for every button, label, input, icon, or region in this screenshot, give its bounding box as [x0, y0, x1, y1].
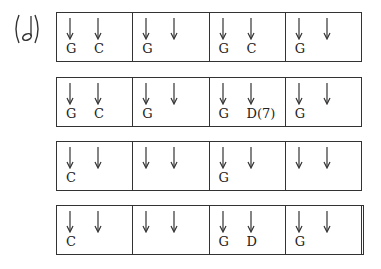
chord-label: G [219, 171, 229, 185]
chord-label: G [219, 42, 229, 56]
chart-row: CG [56, 141, 362, 191]
down-arrow-icon [246, 147, 256, 169]
down-arrow-icon [218, 83, 228, 105]
down-arrow-icon [294, 18, 304, 40]
chord-label: D(7) [247, 107, 276, 121]
measure: G [133, 78, 209, 126]
measure: GC [57, 13, 133, 61]
chord-label: G [142, 42, 152, 56]
measure: G [286, 13, 361, 61]
measure: C [57, 206, 133, 254]
down-arrow-icon [169, 147, 179, 169]
measure: G [210, 142, 286, 190]
measure: C [57, 142, 133, 190]
down-arrow-icon [141, 211, 151, 233]
down-arrow-icon [93, 147, 103, 169]
down-arrow-icon [93, 211, 103, 233]
chord-label: G [219, 107, 229, 121]
down-arrow-icon [169, 83, 179, 105]
chord-label: G [295, 235, 305, 249]
chord-label: G [219, 235, 229, 249]
half-note-icon [12, 12, 42, 46]
down-arrow-icon [93, 18, 103, 40]
chord-label: G [142, 107, 152, 121]
chord-label: G [66, 42, 76, 56]
measure [133, 142, 209, 190]
down-arrow-icon [169, 18, 179, 40]
measure: GD [210, 206, 286, 254]
down-arrow-icon [218, 147, 228, 169]
down-arrow-icon [93, 83, 103, 105]
chord-label: G [295, 107, 305, 121]
down-arrow-icon [218, 211, 228, 233]
down-arrow-icon [65, 147, 75, 169]
down-arrow-icon [246, 18, 256, 40]
down-arrow-icon [141, 83, 151, 105]
down-arrow-icon [322, 83, 332, 105]
down-arrow-icon [141, 147, 151, 169]
chord-label: C [66, 235, 76, 249]
down-arrow-icon [294, 211, 304, 233]
measure: GC [57, 78, 133, 126]
down-arrow-icon [294, 147, 304, 169]
down-arrow-icon [141, 18, 151, 40]
chord-label: C [94, 42, 104, 56]
down-arrow-icon [294, 83, 304, 105]
down-arrow-icon [322, 211, 332, 233]
down-arrow-icon [322, 147, 332, 169]
measure: G [286, 206, 361, 254]
down-arrow-icon [169, 211, 179, 233]
measure: G [133, 13, 209, 61]
chord-label: C [94, 107, 104, 121]
chart-row: GCGGD(7)G [56, 77, 362, 127]
down-arrow-icon [246, 211, 256, 233]
measure: GD(7) [210, 78, 286, 126]
chord-label: C [66, 171, 76, 185]
measure [286, 142, 361, 190]
measure: G [286, 78, 361, 126]
chord-label: G [295, 42, 305, 56]
chord-label: G [66, 107, 76, 121]
chord-label: C [247, 42, 257, 56]
measure [133, 206, 209, 254]
down-arrow-icon [65, 18, 75, 40]
down-arrow-icon [246, 83, 256, 105]
measure: GC [210, 13, 286, 61]
down-arrow-icon [218, 18, 228, 40]
chart-row: CGDG [56, 205, 364, 255]
down-arrow-icon [65, 83, 75, 105]
down-arrow-icon [322, 18, 332, 40]
chart-row: GCGGCG [56, 12, 362, 62]
half-note-label [12, 12, 42, 46]
down-arrow-icon [65, 211, 75, 233]
chord-label: D [247, 235, 257, 249]
